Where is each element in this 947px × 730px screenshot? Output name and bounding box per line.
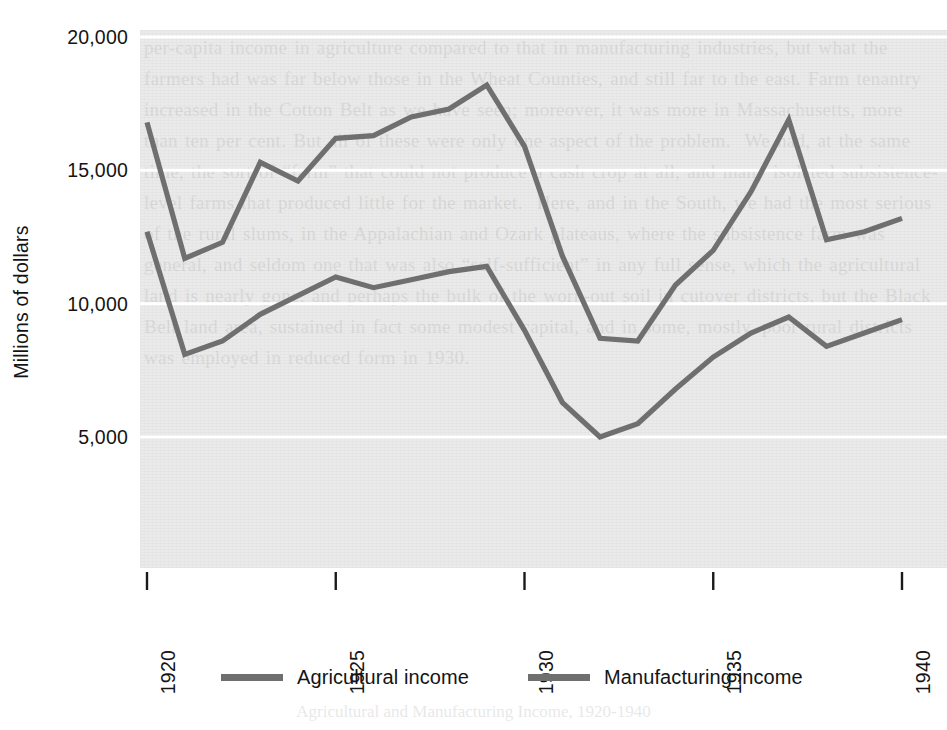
legend-swatch-icon: [221, 674, 283, 681]
legend-label: Manufacturing income: [604, 666, 803, 689]
caption-ghost: Agricultural and Manufacturing Income, 1…: [0, 702, 947, 722]
y-axis-title: Millions of dollars: [10, 225, 33, 378]
y-axis-title-wrap: Millions of dollars: [6, 162, 36, 442]
y-axis-tick-label: 20,000: [67, 26, 128, 49]
chart-figure: per-capita income in agriculture compare…: [0, 0, 947, 730]
y-axis-tick-label: 5,000: [78, 426, 128, 449]
chart-legend: Agricultural income Manufacturing income: [0, 662, 947, 696]
legend-swatch-icon: [528, 674, 590, 681]
x-axis-ticks: [147, 572, 902, 590]
chart-canvas: [0, 0, 947, 730]
y-axis-tick-label: 15,000: [67, 159, 128, 182]
legend-item-manufacturing: Manufacturing income: [528, 662, 803, 692]
series-lines: [147, 85, 902, 437]
series-line-agricultural-income: [147, 232, 902, 437]
legend-item-agricultural: Agricultural income: [221, 662, 469, 692]
y-axis-tick-label: 10,000: [67, 292, 128, 315]
legend-label: Agricultural income: [297, 666, 469, 689]
